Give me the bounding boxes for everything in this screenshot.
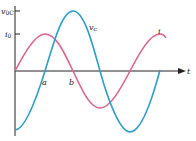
i-curve-label: i <box>158 27 161 36</box>
lc-oscillation-diagram: v0C i0 a b vc i t <box>0 0 196 141</box>
i0-label: i0 <box>5 30 12 39</box>
marker-b-label: b <box>69 78 74 87</box>
t-axis-arrow-icon <box>178 68 186 74</box>
v0c-label: v0C <box>1 7 14 16</box>
vc-curve-label: vc <box>89 23 98 32</box>
t-axis-label: t <box>187 67 191 76</box>
marker-a-label: a <box>42 78 47 87</box>
